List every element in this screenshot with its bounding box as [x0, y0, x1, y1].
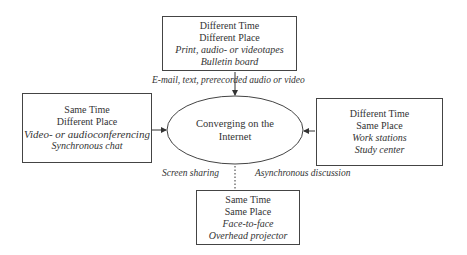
box-same-time-different-place: Same Time Different Place Video- or audi… [22, 93, 152, 163]
box-example: Overhead projector [209, 230, 288, 242]
center-label-line: Converging on the [167, 117, 303, 130]
box-different-time-same-place: Different Time Same Place Work stations … [316, 98, 443, 166]
box-title: Different Time [350, 108, 410, 120]
box-example: Study center [355, 144, 405, 156]
box-title: Same Time [225, 194, 270, 206]
connector-label-asynchronous-discussion: Asynchronous discussion [255, 168, 350, 178]
box-title: Same Place [225, 206, 271, 218]
box-example: Work stations [352, 132, 406, 144]
box-different-time-different-place: Different Time Different Place Print, au… [162, 16, 297, 71]
box-example: Bulletin board [201, 56, 259, 68]
center-label-line: Internet [167, 130, 303, 143]
box-title: Different Place [57, 116, 118, 128]
center-label: Converging on the Internet [167, 117, 303, 143]
box-example: Video- or audioconferencing [24, 128, 150, 140]
box-same-time-same-place: Same Time Same Place Face-to-face Overhe… [196, 190, 300, 245]
connector-label-top: E-mail, text, prerecorded audio or video [152, 75, 305, 85]
box-example: Synchronous chat [51, 140, 122, 152]
box-example: Face-to-face [222, 218, 273, 230]
box-title: Same Time [64, 104, 109, 116]
box-title: Different Time [200, 20, 260, 32]
box-title: Different Place [199, 32, 260, 44]
connector-label-screen-sharing: Screen sharing [162, 168, 219, 178]
box-example: Print, audio- or videotapes [175, 44, 283, 56]
box-title: Same Place [356, 120, 402, 132]
